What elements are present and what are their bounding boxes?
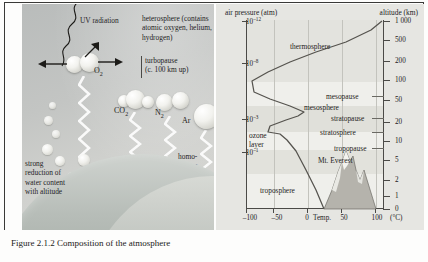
temp-tick-100 bbox=[375, 209, 376, 213]
water-bubble bbox=[52, 130, 60, 138]
turbopause-note-line-1: turbopause bbox=[145, 56, 214, 65]
water-bubble bbox=[49, 102, 56, 109]
water-content-note-line-4: with altitude bbox=[25, 187, 85, 196]
altitude-tick-label-10: 10 bbox=[395, 137, 402, 145]
temp-tick-50 bbox=[341, 209, 342, 213]
figure-container: UV radiation heterosphere (contains atom… bbox=[0, 0, 428, 262]
temp-axis-label: Temp. bbox=[313, 214, 331, 222]
turbopause-marker bbox=[141, 56, 142, 78]
altitude-tick-200 bbox=[383, 61, 390, 62]
altitude-tick-label-100: 100 bbox=[395, 76, 406, 84]
argon-molecule-label: Ar bbox=[182, 116, 190, 125]
mesopause-leader-line bbox=[372, 96, 384, 97]
water-content-note-line-1: strong bbox=[25, 159, 85, 168]
altitude-tick-label-200: 200 bbox=[395, 57, 406, 65]
mesosphere-label: mesosphere bbox=[304, 103, 339, 112]
altitude-tick-label-1: 1 bbox=[395, 192, 399, 200]
heterosphere-note: heterosphere (contains atomic oxygen, he… bbox=[142, 14, 214, 42]
ozone-layer-label: ozone layer bbox=[249, 131, 267, 149]
thermosphere-label: thermosphere bbox=[290, 42, 330, 51]
turbopause-note: turbopause (c. 100 km up) bbox=[145, 56, 214, 75]
heterosphere-note-line-2: atomic oxygen, helium, bbox=[142, 23, 214, 32]
temp-tick-minus-50 bbox=[273, 209, 274, 213]
altitude-tick-label-20: 20 bbox=[395, 118, 402, 126]
altitude-tick-20 bbox=[383, 122, 390, 123]
altitude-tick-0 bbox=[383, 209, 390, 210]
pressure-axis-title: air pressure (atm) bbox=[225, 8, 277, 17]
figure-caption: Figure 2.1.2 Composition of the atmosphe… bbox=[11, 238, 170, 248]
altitude-axis-title: altitude (km) bbox=[380, 8, 418, 17]
altitude-tick-1000 bbox=[383, 21, 390, 22]
altitude-tick-1 bbox=[383, 196, 390, 197]
ozone-layer-label-line-2: layer bbox=[249, 140, 267, 149]
argon-atom bbox=[194, 104, 214, 129]
altitude-tick-2 bbox=[383, 180, 390, 181]
temp-tick-label-0: 0 bbox=[305, 214, 309, 222]
temp-tick-label-100: 100 bbox=[372, 214, 383, 222]
altitude-tick-label-2: 2 bbox=[395, 176, 399, 184]
altitude-tick-label-0: 0 bbox=[395, 205, 399, 213]
water-content-note-line-2: reduction of bbox=[25, 168, 85, 177]
temp-axis-unit: (°C) bbox=[390, 214, 402, 222]
oxygen-molecule-label: O2 bbox=[94, 66, 103, 77]
altitude-tick-50 bbox=[383, 100, 390, 101]
stratopause-leader-line bbox=[372, 118, 384, 119]
uv-radiation-label: UV radiation bbox=[80, 16, 119, 25]
stratosphere-label: stratosphere bbox=[320, 128, 356, 137]
altitude-tick-5 bbox=[383, 160, 390, 161]
atmosphere-illustration: UV radiation heterosphere (contains atom… bbox=[22, 4, 214, 230]
stratosphere-leader-line bbox=[372, 132, 384, 133]
nitrogen-atom-2 bbox=[172, 92, 189, 109]
water-content-note-line-3: water content bbox=[25, 178, 85, 187]
heterosphere-note-line-3: hydrogen) bbox=[142, 33, 214, 42]
temp-tick-label-50: 50 bbox=[340, 214, 347, 222]
tropopause-leader-line bbox=[372, 148, 384, 149]
figure-left-rule bbox=[4, 2, 5, 230]
temp-tick-minus-100 bbox=[246, 209, 247, 213]
water-bubble bbox=[42, 144, 53, 155]
altitude-tick-label-1000: 1 000 bbox=[395, 17, 411, 25]
altitude-tick-label-500: 500 bbox=[395, 36, 406, 44]
nitrogen-molecule-label: N2 bbox=[155, 108, 164, 119]
mesopause-label: mesopause bbox=[326, 92, 358, 101]
dissociation-arrow-left-icon bbox=[38, 58, 68, 70]
water-bubble bbox=[44, 116, 53, 125]
altitude-tick-500 bbox=[383, 40, 390, 41]
altitude-tick-label-50: 50 bbox=[395, 96, 402, 104]
altitude-tick-10 bbox=[383, 141, 390, 142]
stratopause-label: stratopause bbox=[331, 114, 364, 123]
troposphere-label: troposphere bbox=[260, 186, 295, 195]
ozone-layer-label-line-1: ozone bbox=[249, 131, 267, 140]
mount-everest-label: Mt. Everest bbox=[318, 156, 352, 165]
turbopause-note-line-2: (c. 100 km up) bbox=[145, 65, 214, 74]
tropopause-label: tropopause bbox=[334, 144, 366, 153]
carbon-dioxide-atom-3 bbox=[142, 96, 154, 108]
figure-top-rule bbox=[4, 2, 424, 3]
temp-tick-label-minus-50: –50 bbox=[272, 214, 283, 222]
water-content-note: strong reduction of water content with a… bbox=[25, 159, 85, 196]
altitude-tick-label-5: 5 bbox=[395, 156, 399, 164]
temp-tick-label-minus-100: –100 bbox=[243, 214, 257, 222]
altitude-tick-100 bbox=[383, 80, 390, 81]
atmosphere-profile-chart: air pressure (atm) altitude (km) 10–12 1… bbox=[216, 4, 424, 230]
carbon-dioxide-molecule-label: CO2 bbox=[114, 106, 128, 117]
temp-tick-0 bbox=[307, 209, 308, 213]
heterosphere-note-line-1: heterosphere (contains bbox=[142, 14, 214, 23]
